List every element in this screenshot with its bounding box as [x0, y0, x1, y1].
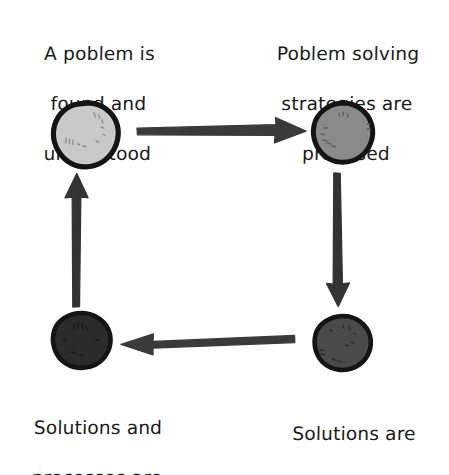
blob-shape-br [315, 316, 371, 370]
node-label-line: processes are [2, 465, 193, 475]
node-blob-solutions-applied [312, 313, 374, 373]
blob-shape-bl [53, 313, 111, 368]
node-label-solutions-assessed: Solutions and processes are assessed [0, 390, 194, 475]
node-label-line: Solutions and [3, 415, 194, 440]
arrow-assessed-to-problem [62, 172, 92, 308]
arrow-right-icon [137, 118, 306, 144]
diagram-canvas: A poblem is found and understood Poblem … [0, 0, 449, 475]
blob-shape-tl [53, 103, 118, 167]
node-label-line: Solutions are [259, 421, 449, 446]
node-blob-strategies-proposed [310, 100, 376, 166]
arrow-applied-to-assessed [118, 329, 296, 359]
node-label-line: A poblem is [7, 41, 193, 66]
node-blob-problem-found [50, 100, 122, 170]
node-label-line: Poblem solving [253, 41, 444, 66]
arrow-problem-to-strategies [136, 116, 308, 146]
node-label-solutions-applied: Solutions are applied and explored upon [256, 396, 449, 475]
arrow-strategies-to-applied [324, 172, 354, 308]
node-blob-solutions-assessed [50, 310, 114, 372]
node-label-line: applied and [258, 471, 449, 475]
arrow-left-icon [121, 334, 295, 355]
arrow-down-icon [327, 173, 350, 307]
arrow-up-icon [65, 174, 88, 308]
